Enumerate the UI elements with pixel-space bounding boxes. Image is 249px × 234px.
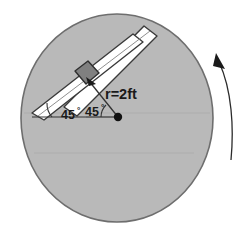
- pivot-point: [114, 113, 122, 121]
- figure-canvas: 45 ° 45 ° r=2ft: [0, 0, 249, 234]
- mechanics-figure: 45 ° 45 ° r=2ft: [0, 0, 249, 234]
- angle-label-left-degree: °: [77, 105, 81, 115]
- rotation-arrow: [213, 53, 232, 160]
- rotation-arrowhead: [213, 53, 225, 69]
- angle-label-right-value: 45: [85, 105, 99, 119]
- angle-label-left-value: 45: [61, 108, 75, 122]
- radius-label: r=2ft: [105, 86, 137, 102]
- angle-label-right-degree: °: [101, 102, 105, 112]
